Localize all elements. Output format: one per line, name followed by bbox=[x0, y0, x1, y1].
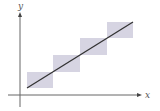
x-axis-arrow-icon bbox=[137, 93, 142, 97]
x-axis-label: x bbox=[145, 90, 150, 100]
diagonal-line bbox=[27, 22, 133, 88]
step-approximation-diagram: x y bbox=[0, 0, 160, 111]
y-axis-arrow-icon bbox=[18, 12, 22, 17]
y-axis-label: y bbox=[17, 1, 24, 11]
